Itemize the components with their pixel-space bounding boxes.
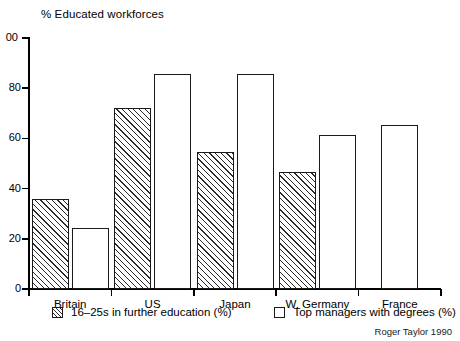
bar-top-managers	[319, 135, 356, 289]
legend-label-further-education: 16–25s in further education (%)	[71, 306, 231, 318]
plot-area	[29, 38, 441, 289]
y-axis-tick	[22, 87, 29, 89]
x-axis-tick	[193, 289, 195, 296]
x-axis-tick	[358, 289, 360, 296]
y-axis-tick	[22, 188, 29, 190]
x-axis-tick	[28, 289, 30, 296]
y-axis-label: 80	[0, 81, 21, 93]
y-axis-label: 20	[0, 232, 21, 244]
bar-further-education	[197, 152, 234, 289]
y-axis-label: 0	[0, 282, 21, 294]
legend-entry-further-education: 16–25s in further education (%)	[52, 306, 231, 318]
x-axis-tick	[275, 289, 277, 296]
bar-top-managers	[381, 125, 418, 289]
bar-further-education	[114, 108, 151, 289]
bar-further-education	[32, 199, 69, 289]
open-swatch-icon	[274, 307, 285, 318]
y-axis-label: 40	[0, 182, 21, 194]
x-axis-tick	[111, 289, 113, 296]
x-axis-tick	[440, 289, 442, 296]
chart-credit: Roger Taylor 1990	[375, 326, 452, 337]
legend-entry-top-managers: Top managers with degrees (%)	[274, 306, 455, 318]
y-axis-label: 00	[0, 31, 18, 43]
y-axis-tick	[22, 138, 29, 140]
y-axis-label: 60	[0, 131, 21, 143]
bar-top-managers	[154, 74, 191, 289]
chart-title: % Educated workforces	[41, 8, 164, 20]
y-axis-tick	[22, 238, 29, 240]
bar-chart: % Educated workforces 02040608000 Britai…	[0, 0, 460, 341]
bar-further-education	[279, 172, 316, 289]
chart-legend: 16–25s in further education (%) Top mana…	[52, 306, 456, 318]
hatched-swatch-icon	[52, 307, 63, 318]
bar-top-managers	[72, 228, 109, 289]
legend-label-top-managers: Top managers with degrees (%)	[293, 306, 455, 318]
y-axis-tick	[22, 37, 29, 39]
bar-top-managers	[237, 74, 274, 289]
